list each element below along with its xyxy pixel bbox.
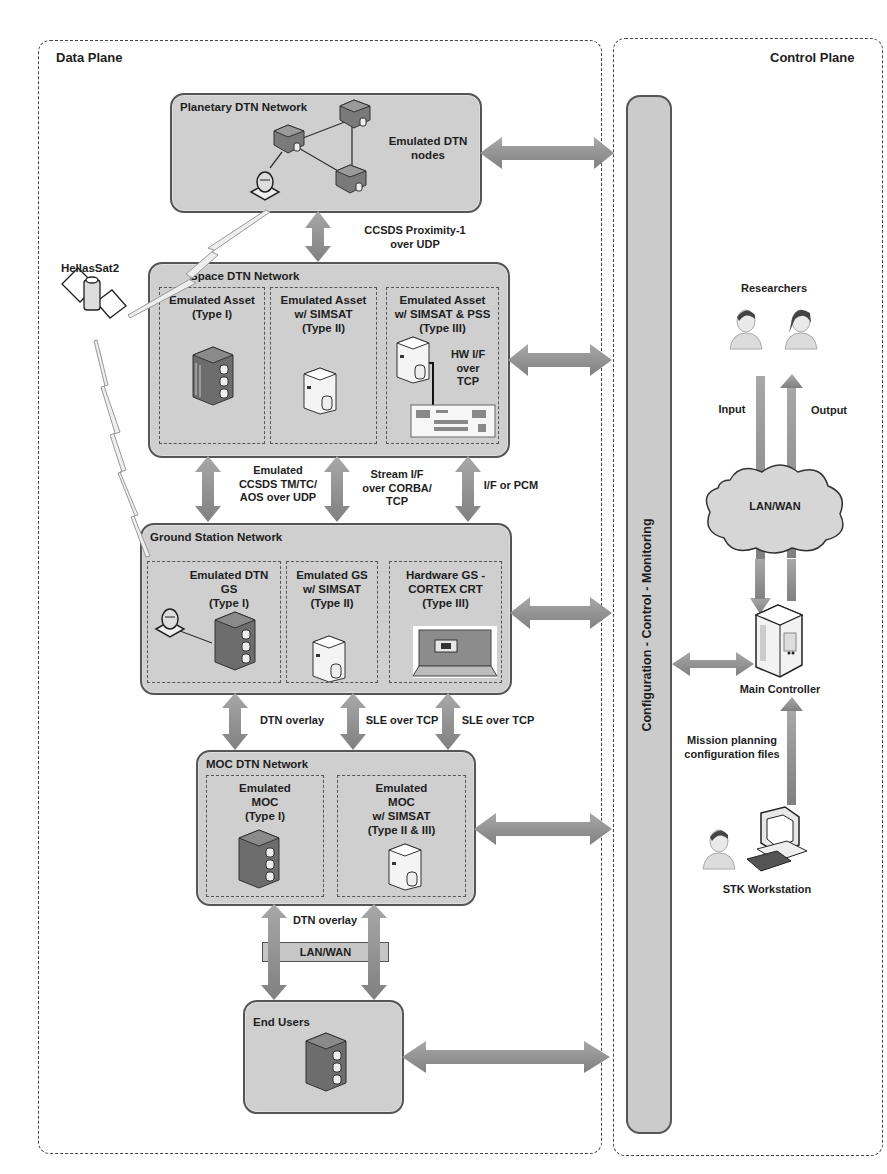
dtn-node-icon bbox=[268, 123, 308, 157]
end-users-title: End Users bbox=[253, 1016, 310, 1028]
space-network-title: Space DTN Network bbox=[190, 270, 299, 282]
tower-server-icon bbox=[393, 335, 433, 385]
rack-server-icon bbox=[234, 828, 284, 890]
stk-workstation-label: STK Workstation bbox=[712, 883, 822, 897]
link-label-sle-2: SLE over TCP bbox=[458, 714, 538, 728]
control-plane-title: Control Plane bbox=[770, 50, 855, 65]
link-label-stream-if: Stream I/Fover CORBA/TCP bbox=[352, 468, 442, 509]
main-controller-server-icon bbox=[752, 603, 806, 679]
link-label-tm-tc-aos: EmulatedCCSDS TM/TC/AOS over UDP bbox=[228, 464, 328, 505]
rack-server-icon bbox=[188, 345, 238, 407]
tower-server-icon bbox=[309, 634, 349, 684]
pss-hardware-panel-icon bbox=[410, 404, 496, 438]
satellite-label: HellasSat2 bbox=[50, 262, 130, 276]
lan-wan-bar: LAN/WAN bbox=[262, 942, 389, 962]
cloud-lan-wan-label: LAN/WAN bbox=[700, 500, 850, 514]
emulated-dtn-nodes-label: Emulated DTNnodes bbox=[378, 135, 478, 162]
researcher-female-icon bbox=[783, 305, 819, 349]
cortex-crt-hardware-icon bbox=[413, 626, 497, 678]
moc-network-title: MOC DTN Network bbox=[206, 758, 308, 770]
output-label: Output bbox=[806, 404, 852, 418]
dtn-node-icon bbox=[330, 163, 370, 197]
ground-antenna-icon bbox=[247, 166, 283, 202]
link-label-planetary-space: CCSDS Proximity-1over UDP bbox=[340, 224, 490, 251]
data-plane-title: Data Plane bbox=[56, 50, 122, 65]
main-controller-label: Main Controller bbox=[730, 683, 830, 697]
dtn-node-icon bbox=[334, 98, 374, 132]
input-label: Input bbox=[714, 403, 750, 417]
stk-workstation-computer-icon bbox=[747, 805, 813, 871]
tower-server-icon bbox=[385, 842, 425, 892]
stk-person-icon bbox=[701, 825, 737, 869]
planetary-network-title: Planetary DTN Network bbox=[180, 101, 307, 113]
ground-antenna-icon bbox=[152, 603, 188, 639]
rack-server-icon bbox=[301, 1031, 351, 1093]
link-label-sle-1: SLE over TCP bbox=[362, 714, 442, 728]
mission-planning-label: Mission planningconfiguration files bbox=[672, 734, 792, 761]
tower-server-icon bbox=[300, 366, 340, 416]
link-label-if-or-pcm: I/F or PCM bbox=[476, 479, 546, 493]
rack-server-icon bbox=[210, 610, 260, 672]
researchers-label: Researchers bbox=[724, 282, 824, 296]
link-label-dtn-overlay-ground: DTN overlay bbox=[252, 714, 332, 728]
hw-if-over-tcp-label: HW I/F overTCP bbox=[438, 348, 498, 389]
ground-network-title: Ground Station Network bbox=[150, 531, 282, 543]
link-label-dtn-overlay-moc: DTN overlay bbox=[285, 914, 365, 928]
configuration-control-monitoring-label: Configuration - Control - Monitoring bbox=[640, 518, 654, 731]
researcher-male-icon bbox=[728, 305, 764, 349]
